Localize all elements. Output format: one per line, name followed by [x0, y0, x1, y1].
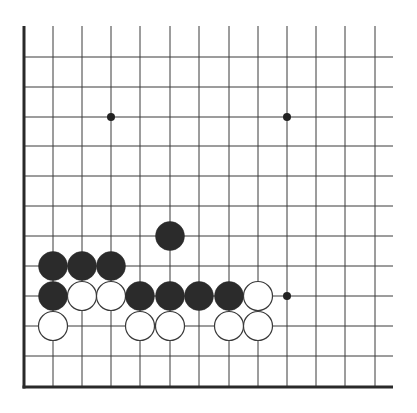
black-stone — [126, 282, 155, 311]
star-point-icon — [283, 113, 291, 121]
white-stone — [215, 312, 244, 341]
star-point-icon — [107, 113, 115, 121]
black-stone — [97, 252, 126, 281]
white-stone — [126, 312, 155, 341]
white-stone — [156, 312, 185, 341]
stones — [39, 222, 273, 341]
white-stone — [68, 282, 97, 311]
white-stone — [244, 282, 273, 311]
white-stone — [97, 282, 126, 311]
white-stone — [244, 312, 273, 341]
star-point-icon — [283, 292, 291, 300]
black-stone — [39, 282, 68, 311]
black-stone — [39, 252, 68, 281]
black-stone — [156, 222, 185, 251]
black-stone — [215, 282, 244, 311]
black-stone — [68, 252, 97, 281]
black-stone — [156, 282, 185, 311]
white-stone — [39, 312, 68, 341]
board-edges — [23, 26, 394, 389]
black-stone — [185, 282, 214, 311]
grid-lines — [24, 26, 393, 387]
go-board — [0, 0, 417, 413]
